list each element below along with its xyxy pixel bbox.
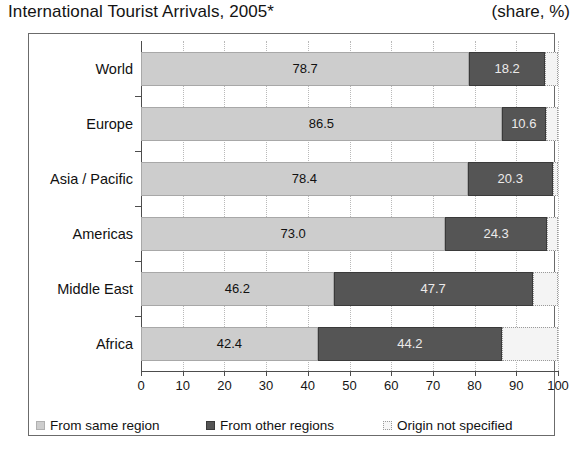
gridline — [433, 41, 435, 371]
x-axis-tick — [308, 371, 309, 376]
category-label: Americas — [73, 226, 133, 242]
bar-segment-not-specified — [546, 107, 558, 141]
bar-segment-not-specified — [533, 272, 558, 306]
legend-item-from-same-region: From same region — [36, 418, 160, 433]
bar-row: Middle East46.247.7 — [141, 272, 558, 306]
gridline — [391, 41, 393, 371]
x-axis-tick-label: 0 — [137, 378, 144, 393]
x-axis-tick — [224, 371, 225, 376]
y-axis-tick — [135, 261, 141, 262]
x-axis-tick — [391, 371, 392, 376]
bar-row: Africa42.444.2 — [141, 327, 558, 361]
x-axis-tick-label: 30 — [259, 378, 273, 393]
unit-label: (share, %) — [492, 2, 570, 22]
gridline — [183, 41, 185, 371]
bar-segment-other-regions: 47.7 — [334, 272, 533, 306]
x-axis-tick-label: 100 — [547, 378, 569, 393]
plot-area — [141, 41, 558, 371]
category-label: Europe — [86, 116, 133, 132]
y-axis-tick — [135, 206, 141, 207]
y-axis-line — [141, 41, 142, 371]
bar-segment-not-specified — [547, 217, 558, 251]
x-axis-tick-label: 20 — [217, 378, 231, 393]
x-axis-tick — [558, 371, 559, 376]
bar-row: Americas73.024.3 — [141, 217, 558, 251]
legend-swatch-icon — [36, 421, 45, 430]
legend-item-from-other-regions: From other regions — [206, 418, 334, 433]
category-label: World — [95, 61, 133, 77]
gridline — [558, 41, 560, 371]
bar-segment-other-regions: 10.6 — [502, 107, 546, 141]
bar-row: Europe86.510.6 — [141, 107, 558, 141]
legend-item-origin-not-specified: Origin not specified — [383, 418, 513, 433]
x-axis-tick-label: 10 — [175, 378, 189, 393]
bar-segment-same-region: 78.4 — [141, 162, 468, 196]
bar-segment-same-region: 78.7 — [141, 52, 469, 86]
x-axis-tick-label: 70 — [426, 378, 440, 393]
y-axis-tick — [135, 316, 141, 317]
gridline — [475, 41, 477, 371]
bar-row: Asia / Pacific78.420.3 — [141, 162, 558, 196]
bar-segment-same-region: 46.2 — [141, 272, 334, 306]
x-axis-tick-label: 40 — [301, 378, 315, 393]
legend-label: Origin not specified — [397, 418, 513, 433]
legend-label: From other regions — [220, 418, 334, 433]
bar-segment-same-region: 86.5 — [141, 107, 502, 141]
x-axis-tick — [475, 371, 476, 376]
bar-segment-same-region: 42.4 — [141, 327, 318, 361]
x-axis-tick — [350, 371, 351, 376]
x-axis-tick — [516, 371, 517, 376]
x-axis-tick-label: 90 — [509, 378, 523, 393]
bar-segment-not-specified — [545, 52, 558, 86]
x-axis-tick-label: 80 — [467, 378, 481, 393]
x-axis-tick-label: 50 — [342, 378, 356, 393]
chart-header: International Tourist Arrivals, 2005* (s… — [0, 0, 578, 30]
page-title: International Tourist Arrivals, 2005* — [8, 2, 274, 22]
x-axis-tick — [141, 371, 142, 376]
gridline — [516, 41, 518, 371]
bar-segment-other-regions: 44.2 — [318, 327, 502, 361]
bar-segment-other-regions: 20.3 — [468, 162, 553, 196]
category-label: Africa — [96, 336, 133, 352]
x-axis-tick — [433, 371, 434, 376]
chart-legend: From same region From other regions Orig… — [28, 414, 555, 436]
bar-segment-not-specified — [502, 327, 558, 361]
category-label: Middle East — [57, 281, 133, 297]
gridline — [224, 41, 226, 371]
y-axis-tick — [135, 96, 141, 97]
legend-swatch-icon — [206, 421, 215, 430]
legend-swatch-icon — [383, 421, 392, 430]
x-axis-tick — [183, 371, 184, 376]
x-axis-tick-label: 60 — [384, 378, 398, 393]
bar-row: World78.718.2 — [141, 52, 558, 86]
legend-label: From same region — [50, 418, 160, 433]
bar-segment-other-regions: 24.3 — [445, 217, 546, 251]
category-label: Asia / Pacific — [50, 171, 133, 187]
bar-segment-same-region: 73.0 — [141, 217, 445, 251]
y-axis-tick — [135, 151, 141, 152]
x-axis-tick — [266, 371, 267, 376]
gridline — [308, 41, 310, 371]
gridline — [350, 41, 352, 371]
bar-segment-not-specified — [553, 162, 558, 196]
chart-frame: 0102030405060708090100World78.718.2Europ… — [28, 33, 555, 436]
bar-segment-other-regions: 18.2 — [469, 52, 545, 86]
gridline — [266, 41, 268, 371]
